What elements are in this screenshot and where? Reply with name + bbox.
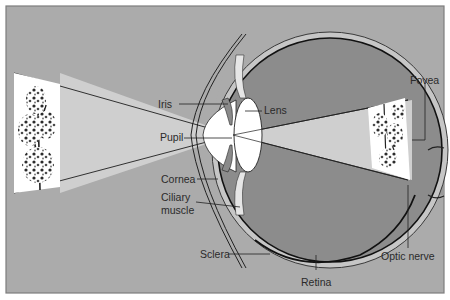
lens [234, 98, 262, 172]
label-sclera: Sclera [200, 249, 230, 260]
retinal-tree-image [368, 98, 410, 180]
label-optic-nerve: Optic nerve [381, 251, 435, 262]
label-fovea: Fovea [410, 75, 439, 86]
label-lens: Lens [264, 105, 287, 116]
label-iris: Iris [158, 99, 172, 110]
label-ciliary-line1: Ciliary [161, 192, 190, 203]
label-pupil: Pupil [160, 132, 183, 143]
label-cornea: Cornea [161, 174, 195, 185]
label-ciliary-line2: muscle [161, 205, 194, 216]
source-tree-image [14, 73, 60, 193]
eye-diagram: Iris Pupil Lens Cornea Ciliary muscle Sc… [0, 0, 450, 300]
label-retina: Retina [301, 277, 331, 288]
